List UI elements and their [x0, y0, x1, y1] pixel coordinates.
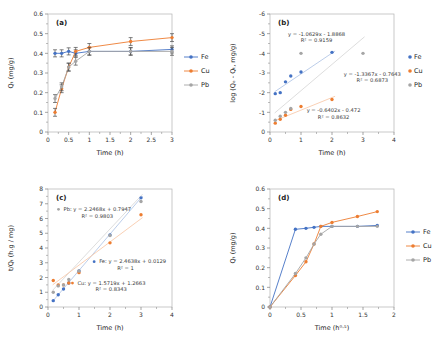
y-tick-label: 0	[261, 128, 265, 135]
x-tick-label: 2	[392, 311, 396, 318]
legend-label-Pb: Pb	[423, 256, 431, 264]
y-tick-label: -4	[259, 50, 265, 57]
y-axis-title: log (Qₑ - Qₜ, mg/g)	[229, 43, 237, 102]
annotation: y = -0.6402x - 0.472R² = 0.8632	[307, 107, 361, 120]
y-tick-label: 6	[39, 215, 43, 222]
annotation: y = -1.3367x - 0.7643R² = 0.6873	[344, 71, 401, 84]
y-axis-title: t/Qₜ (h.g / mg)	[7, 225, 15, 271]
y-tick-label: 3	[39, 259, 43, 266]
series-Cu	[268, 210, 379, 309]
x-axis-title: Time (h)	[95, 324, 123, 332]
x-tick-label: 2	[330, 136, 334, 143]
chart-svg-a: 00.511.522.5300.10.20.30.40.50.6Time (h)…	[0, 0, 222, 175]
x-tick-label: 3	[139, 311, 143, 318]
x-tick-label: 0	[46, 311, 50, 318]
series-Pb	[53, 47, 174, 102]
equation-text: R² = 1	[117, 265, 134, 271]
y-tick-label: -2	[259, 89, 265, 96]
x-tick-label: 1	[330, 311, 334, 318]
panel-tag: (b)	[278, 19, 289, 27]
y-tick-label: 0.5	[33, 30, 43, 37]
y-tick-label: -1	[259, 109, 265, 116]
y-tick-label: 7	[39, 200, 43, 207]
x-tick-label: 0	[268, 136, 272, 143]
adsorption-kinetics-figure: 00.511.522.5300.10.20.30.40.50.6Time (h)…	[0, 0, 444, 350]
y-axis: 012345678	[39, 185, 48, 310]
panel-tag: (a)	[56, 19, 67, 27]
chart-svg-b: 012340-1-2-3-4-5-6y = -1.0629x - 1.8868R…	[222, 0, 444, 175]
series-Fe	[268, 224, 379, 309]
annotation: Cu: y = 1.5719x + 1.2663R² = 0.8343	[71, 280, 145, 293]
x-tick-label: 0	[46, 136, 50, 143]
y-tick-label: -6	[259, 10, 265, 17]
legend-label-Pb: Pb	[201, 81, 209, 89]
panel-c-pseudo-second-order-chart: 01234012345678Pb: y = 2.2468x + 0.7947R²…	[0, 175, 222, 350]
panel-a-kinetic-uptake-chart: 00.511.522.5300.10.20.30.40.50.6Time (h)…	[0, 0, 222, 175]
y-tick-label: 0	[39, 128, 43, 135]
chart-svg-d: 00.511.5200.10.20.30.40.50.6Time (h⁰·⁵)Q…	[222, 175, 444, 350]
legend-label-Cu: Cu	[201, 67, 210, 75]
x-axis: 00.511.52	[268, 307, 396, 318]
y-axis: 0-1-2-3-4-5-6	[259, 10, 270, 135]
y-tick-label: 0.3	[255, 244, 265, 251]
chart-svg-c: 01234012345678Pb: y = 2.2468x + 0.7947R²…	[0, 175, 222, 350]
y-tick-label: 0.3	[33, 69, 43, 76]
y-tick-label: 0.4	[255, 225, 265, 232]
annotation: y = -1.0629x - 1.8868R² = 0.9159	[288, 31, 345, 44]
panel-tag: (d)	[278, 194, 289, 202]
x-tick-label: 4	[392, 136, 396, 143]
equation-text: R² = 0.9159	[301, 37, 332, 43]
x-axis-title: Time (h⁰·⁵)	[314, 324, 349, 332]
equation-text: R² = 0.8632	[318, 114, 349, 120]
x-axis: 01234	[268, 132, 396, 143]
series-Pb	[268, 225, 379, 309]
x-axis: 00.511.522.53	[46, 132, 174, 143]
x-tick-label: 2	[108, 311, 112, 318]
annotation: Pb: y = 2.2468x + 0.7947R² = 0.9803	[57, 206, 131, 219]
x-tick-label: 3	[361, 136, 365, 143]
y-tick-label: -3	[259, 69, 265, 76]
y-tick-label: 0.1	[33, 109, 43, 116]
y-tick-label: 4	[39, 244, 43, 251]
y-tick-label: 0.4	[33, 50, 43, 57]
panel-d-intraparticle-diffusion-chart: 00.511.5200.10.20.30.40.50.6Time (h⁰·⁵)Q…	[222, 175, 444, 350]
x-tick-label: 1.5	[105, 136, 115, 143]
x-tick-label: 1	[87, 136, 91, 143]
x-tick-label: 3	[170, 136, 174, 143]
legend-label-Fe: Fe	[201, 53, 208, 61]
y-tick-label: 2	[39, 274, 43, 281]
y-tick-label: 0	[39, 303, 43, 310]
y-tick-label: 0.6	[255, 185, 265, 192]
x-tick-label: 0	[268, 311, 272, 318]
legend: FeCuPb	[408, 53, 422, 89]
y-axis-title: Qₜ (mg/g)	[229, 233, 237, 264]
x-axis-title: Time (h)	[95, 149, 123, 157]
annotation: Fe: y = 2.4638x + 0.0129R² = 1	[93, 258, 166, 271]
y-tick-label: 0.1	[255, 284, 265, 291]
legend: FeCuPb	[184, 53, 210, 89]
y-tick-label: 8	[39, 185, 43, 192]
y-tick-label: 1	[39, 288, 43, 295]
plot-border	[270, 189, 394, 307]
y-tick-label: 0.6	[33, 10, 43, 17]
y-tick-label: 0.2	[33, 89, 43, 96]
y-tick-label: 0.5	[255, 205, 265, 212]
x-tick-label: 1	[77, 311, 81, 318]
panel-tag: (c)	[56, 194, 67, 202]
legend: FeCuPb	[406, 228, 432, 264]
equation-text: R² = 0.8343	[95, 286, 126, 292]
y-tick-label: 5	[39, 229, 43, 236]
y-axis-title: Qₜ (mg/g)	[7, 58, 15, 89]
y-axis: 00.10.20.30.40.50.6	[33, 10, 48, 135]
legend-label-Cu: Cu	[414, 67, 423, 75]
x-tick-label: 2	[129, 136, 133, 143]
x-tick-label: 2.5	[147, 136, 157, 143]
legend-label-Cu: Cu	[423, 242, 432, 250]
x-tick-label: 1	[299, 136, 303, 143]
x-tick-label: 4	[170, 311, 174, 318]
y-axis: 00.10.20.30.40.50.6	[255, 185, 270, 310]
series-Cu	[53, 34, 174, 117]
x-tick-label: 0.5	[64, 136, 74, 143]
equation-text: R² = 0.9803	[82, 213, 113, 219]
y-tick-label: -5	[259, 30, 265, 37]
